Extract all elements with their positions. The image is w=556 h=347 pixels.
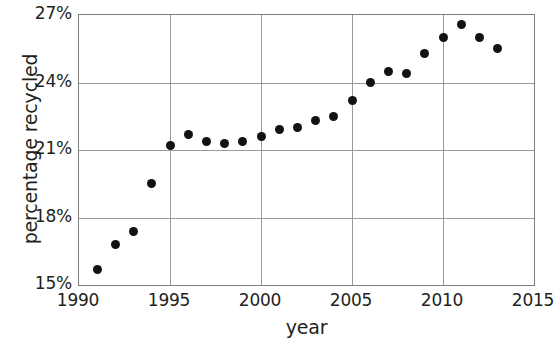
data-point (493, 44, 502, 53)
x-tick-label: 2005 (316, 291, 386, 310)
data-point (475, 33, 484, 42)
data-point (329, 112, 338, 121)
gridline-vertical (261, 15, 262, 285)
data-point (348, 96, 357, 105)
x-axis-tick-labels: 199019952000200520102015 (78, 291, 535, 313)
data-point (420, 49, 429, 58)
gridline-vertical (443, 15, 444, 285)
data-point (184, 130, 193, 139)
data-point (111, 240, 120, 249)
data-point (166, 141, 175, 150)
data-point (402, 69, 411, 78)
data-point (366, 78, 375, 87)
x-tick-label: 1990 (43, 291, 113, 310)
data-point (457, 20, 466, 29)
x-tick-label: 2015 (498, 291, 556, 310)
gridline-vertical (170, 15, 171, 285)
data-point (93, 265, 102, 274)
plot-area (78, 14, 535, 286)
data-point (275, 125, 284, 134)
data-point (293, 123, 302, 132)
y-axis-title: percentage recycled (19, 0, 41, 299)
gridline-horizontal (79, 218, 534, 219)
data-point (147, 179, 156, 188)
data-point (220, 139, 229, 148)
data-point (238, 137, 247, 146)
gridline-horizontal (79, 83, 534, 84)
data-point (129, 227, 138, 236)
gridline-vertical (352, 15, 353, 285)
x-tick-label: 2010 (407, 291, 477, 310)
data-point (202, 137, 211, 146)
data-point (311, 116, 320, 125)
x-tick-label: 2000 (225, 291, 295, 310)
data-point (384, 67, 393, 76)
data-point (439, 33, 448, 42)
x-axis-title: year (78, 316, 535, 338)
x-tick-label: 1995 (134, 291, 204, 310)
gridline-horizontal (79, 150, 534, 151)
recycling-scatter-chart: 15%18%21%24%27% 199019952000200520102015… (0, 0, 556, 347)
data-point (257, 132, 266, 141)
